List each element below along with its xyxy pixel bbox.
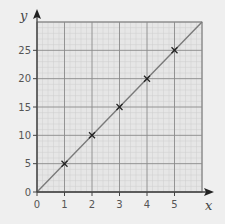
x-tick-label: 5 bbox=[171, 199, 177, 210]
x-axis-label: x bbox=[205, 198, 213, 213]
x-tick-label: 4 bbox=[144, 199, 150, 210]
x-tick-label: 0 bbox=[34, 199, 40, 210]
y-tick-label: 10 bbox=[18, 130, 31, 141]
y-tick-label: 25 bbox=[18, 45, 31, 56]
y-tick-label: 5 bbox=[25, 158, 31, 169]
x-tick-label: 2 bbox=[89, 199, 95, 210]
y-axis-label: y bbox=[19, 8, 28, 23]
line-chart: 0123450510152025 x y bbox=[0, 0, 225, 224]
y-tick-label: 20 bbox=[18, 73, 31, 84]
y-tick-label: 15 bbox=[18, 102, 31, 113]
x-tick-label: 3 bbox=[116, 199, 122, 210]
y-tick-label: 0 bbox=[25, 187, 31, 198]
x-tick-label: 1 bbox=[61, 199, 67, 210]
